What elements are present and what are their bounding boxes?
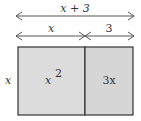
region-left-label: x [45, 74, 52, 87]
height-label: x [5, 74, 12, 87]
area-model-diagram: x + 3 x 3 x x 2 3x [0, 0, 141, 121]
region-left-exponent: 2 [55, 67, 62, 80]
total-width-label: x + 3 [60, 2, 89, 15]
region-right-label: 3x [102, 74, 116, 87]
segment-right-label: 3 [106, 22, 113, 35]
segment-left-label: x [48, 22, 55, 35]
segment-arrows [16, 32, 134, 40]
region-x-squared [18, 47, 85, 115]
